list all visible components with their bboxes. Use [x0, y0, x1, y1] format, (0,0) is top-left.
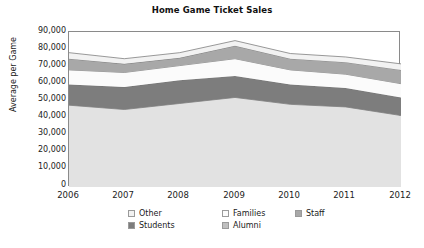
stacked-area-plot — [69, 32, 401, 187]
legend-item-families[interactable]: Families — [222, 209, 265, 218]
legend-swatch-students-icon — [128, 222, 135, 229]
legend-row-1: Other Families Staff — [0, 209, 424, 221]
y-axis-tick-10000: 10,000 — [6, 163, 66, 171]
y-axis-tick-0: 0 — [6, 181, 66, 189]
y-axis-tick-60000: 60,000 — [6, 78, 66, 86]
legend-swatch-alumni-icon — [222, 222, 229, 229]
y-axis-tick-20000: 20,000 — [6, 146, 66, 154]
x-axis-tick-2010: 2010 — [266, 190, 312, 200]
plot-area — [68, 31, 400, 186]
legend-swatch-other-icon — [128, 210, 135, 217]
x-axis-tick-2012: 2012 — [377, 190, 423, 200]
y-axis-tick-40000: 40,000 — [6, 112, 66, 120]
y-axis-tick-50000: 50,000 — [6, 95, 66, 103]
y-axis-tick-30000: 30,000 — [6, 129, 66, 137]
y-axis-tick-70000: 70,000 — [6, 61, 66, 69]
legend-item-staff[interactable]: Staff — [295, 209, 325, 218]
y-axis-tick-80000: 80,000 — [6, 44, 66, 52]
legend-swatch-staff-icon — [295, 210, 302, 217]
legend-label-staff: Staff — [306, 209, 325, 218]
legend-item-students[interactable]: Students — [128, 221, 175, 230]
x-axis-tick-2008: 2008 — [155, 190, 201, 200]
x-axis-tick-2011: 2011 — [321, 190, 367, 200]
legend-label-alumni: Alumni — [233, 221, 261, 230]
legend-label-students: Students — [139, 221, 175, 230]
x-axis-tick-2007: 2007 — [100, 190, 146, 200]
legend-label-other: Other — [139, 209, 162, 218]
legend-label-families: Families — [233, 209, 265, 218]
x-axis-tick-2006: 2006 — [45, 190, 91, 200]
legend-row-2: Students Alumni — [0, 221, 424, 233]
legend-item-other[interactable]: Other — [128, 209, 162, 218]
legend-item-alumni[interactable]: Alumni — [222, 221, 261, 230]
y-axis-tick-90000: 90,000 — [6, 27, 66, 35]
chart-container: Home Game Ticket Sales Average per Game … — [0, 0, 424, 248]
chart-title: Home Game Ticket Sales — [0, 5, 424, 15]
area-band-alumni — [69, 97, 401, 187]
chart-legend: Other Families Staff Students Alumni — [0, 209, 424, 233]
legend-swatch-families-icon — [222, 210, 229, 217]
x-axis-tick-2009: 2009 — [211, 190, 257, 200]
